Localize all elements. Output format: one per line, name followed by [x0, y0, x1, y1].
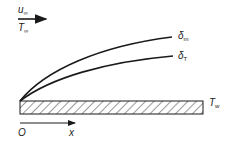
- velocity-subscript: ∞: [24, 10, 28, 16]
- wall-temperature-subscript: w: [215, 103, 219, 109]
- temperature-subscript: ∞: [24, 28, 28, 34]
- boundary-layer-diagram: [0, 0, 230, 148]
- delta-m-subscript: m: [184, 36, 189, 42]
- velocity-label: u∞: [18, 5, 28, 16]
- x-axis-label: x: [69, 128, 74, 138]
- origin-label: O: [18, 128, 26, 138]
- delta-m-label: δm: [178, 31, 189, 42]
- thermal-boundary-layer-curve: [20, 56, 173, 101]
- wall-temperature-label: Tw: [209, 98, 219, 109]
- delta-t-label: δT: [178, 51, 187, 62]
- flat-plate: [20, 101, 203, 114]
- delta-t-subscript: T: [184, 56, 188, 62]
- free-stream-temperature-label: T∞: [18, 23, 28, 34]
